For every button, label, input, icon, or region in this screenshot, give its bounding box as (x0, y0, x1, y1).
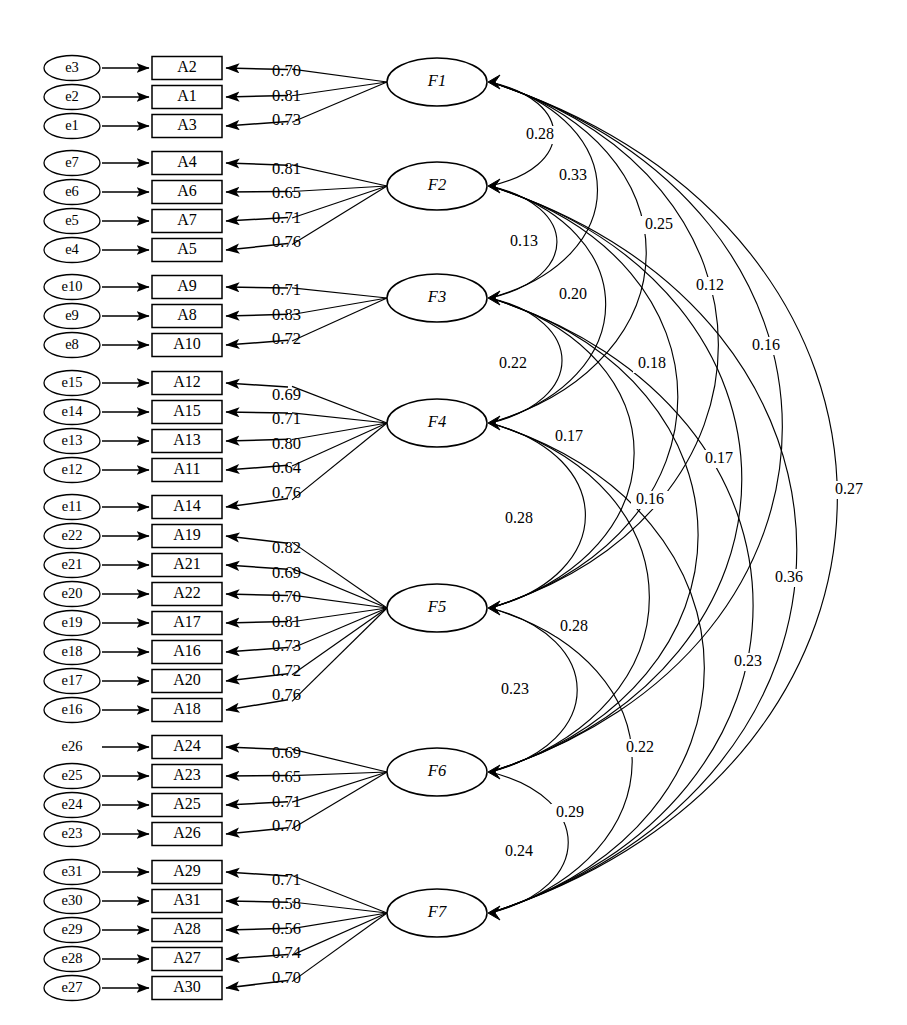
correlation-value: 0.23 (501, 680, 529, 697)
sem-path-diagram: e3e2e1e7e6e5e4e10e9e8e15e14e13e12e11e22e… (0, 0, 907, 1025)
loading-value: 0.71 (272, 409, 301, 428)
error-label: e18 (62, 643, 83, 659)
correlation-arrowhead (488, 291, 500, 305)
error-label: e23 (62, 825, 83, 841)
indicator-label: A9 (177, 277, 197, 294)
factor-spoke (292, 423, 387, 439)
indicator-label: A26 (173, 824, 201, 841)
error-label: e19 (62, 614, 83, 630)
loading-value: 0.73 (272, 636, 301, 655)
error-label: e25 (62, 767, 83, 783)
correlation-value: 0.36 (775, 568, 803, 585)
correlation-value: 0.16 (752, 336, 780, 353)
loading-value: 0.76 (272, 232, 301, 251)
error-label: e7 (65, 154, 79, 170)
error-label: e10 (62, 278, 83, 294)
loading-value-labels: 0.700.810.730.810.650.710.760.710.830.72… (272, 61, 301, 987)
loading-value: 0.72 (272, 329, 301, 348)
error-label: e4 (65, 241, 79, 257)
indicator-label: A21 (173, 555, 201, 572)
indicator-label: A16 (173, 642, 201, 659)
error-label: e2 (65, 88, 79, 104)
factor-spoke (292, 608, 387, 648)
loading-value: 0.56 (272, 919, 301, 938)
factor-spoke (292, 608, 387, 675)
factor-label: F1 (427, 71, 446, 90)
loading-value: 0.69 (272, 563, 301, 582)
indicator-label: A6 (177, 182, 197, 199)
loading-value: 0.81 (272, 159, 301, 178)
error-label: e13 (62, 432, 83, 448)
factor-spoke (292, 165, 387, 186)
indicator-label: A22 (173, 584, 201, 601)
factor-ellipses-group: F1F2F3F4F5F6F7 (387, 58, 487, 937)
indicator-label: A15 (173, 402, 201, 419)
factor-label: F5 (427, 597, 446, 616)
indicator-label: A27 (173, 949, 201, 966)
loading-value: 0.69 (272, 385, 301, 404)
loading-value: 0.64 (272, 458, 301, 477)
loading-value: 0.81 (272, 612, 301, 631)
indicator-label: A23 (173, 766, 201, 783)
indicator-label: A17 (173, 613, 201, 630)
indicator-label: A5 (177, 240, 197, 257)
loading-value: 0.83 (272, 305, 301, 324)
loading-value: 0.65 (272, 183, 301, 202)
factor-label: F7 (427, 902, 447, 921)
correlation-value: 0.33 (559, 166, 587, 183)
indicator-label: A30 (173, 978, 201, 995)
loading-value: 0.72 (272, 661, 301, 680)
correlation-arrowhead (488, 416, 500, 430)
factor-label: F4 (427, 412, 446, 431)
correlation-value: 0.29 (556, 803, 584, 820)
correlation-value: 0.23 (734, 652, 762, 669)
indicator-label: A20 (173, 671, 201, 688)
factor-spoke (292, 608, 387, 701)
indicator-label: A11 (174, 460, 201, 477)
indicator-label: A10 (173, 335, 201, 352)
loading-value: 0.70 (272, 61, 301, 80)
loading-value: 0.71 (272, 792, 301, 811)
error-label: e16 (62, 701, 83, 717)
factor-spokes-group (292, 69, 387, 981)
loading-value: 0.80 (272, 434, 301, 453)
error-label: e22 (62, 527, 83, 543)
indicator-label: A7 (177, 211, 197, 228)
correlation-curve (490, 423, 704, 913)
indicator-label: A18 (173, 700, 201, 717)
correlation-value: 0.28 (560, 617, 588, 634)
correlation-value-labels: 0.280.130.330.200.220.250.170.180.120.28… (494, 125, 868, 861)
error-label: e14 (62, 403, 84, 419)
factor-spoke (292, 298, 387, 314)
factor-spoke (292, 82, 387, 122)
indicator-label: A3 (177, 116, 197, 133)
error-label: e27 (62, 979, 83, 995)
correlation-value: 0.17 (555, 427, 583, 444)
loading-value: 0.69 (272, 743, 301, 762)
indicator-label: A29 (173, 862, 201, 879)
correlation-value: 0.22 (499, 354, 527, 371)
factor-spoke (292, 749, 387, 772)
indicator-label: A31 (173, 891, 201, 908)
indicator-label: A13 (173, 431, 201, 448)
factor-spoke (292, 772, 387, 829)
indicator-label: A4 (177, 153, 197, 170)
correlation-arrowhead (488, 179, 500, 193)
factor-spoke (292, 913, 387, 955)
indicator-label: A14 (173, 497, 201, 514)
error-label: e8 (65, 336, 79, 352)
error-label: e3 (65, 59, 79, 75)
factor-spoke (292, 69, 387, 82)
factor-spoke (292, 772, 387, 802)
indicator-label: A28 (173, 920, 201, 937)
error-label: e17 (62, 672, 83, 688)
factor-spoke (292, 423, 387, 500)
loading-value: 0.70 (272, 587, 301, 606)
indicator-label: A1 (177, 87, 197, 104)
correlation-curve (490, 82, 718, 608)
correlation-curve (490, 186, 606, 423)
error-label: e26 (62, 738, 83, 754)
factor-loading-arrows (226, 68, 288, 988)
error-label: e30 (62, 892, 83, 908)
error-label: e21 (62, 556, 83, 572)
